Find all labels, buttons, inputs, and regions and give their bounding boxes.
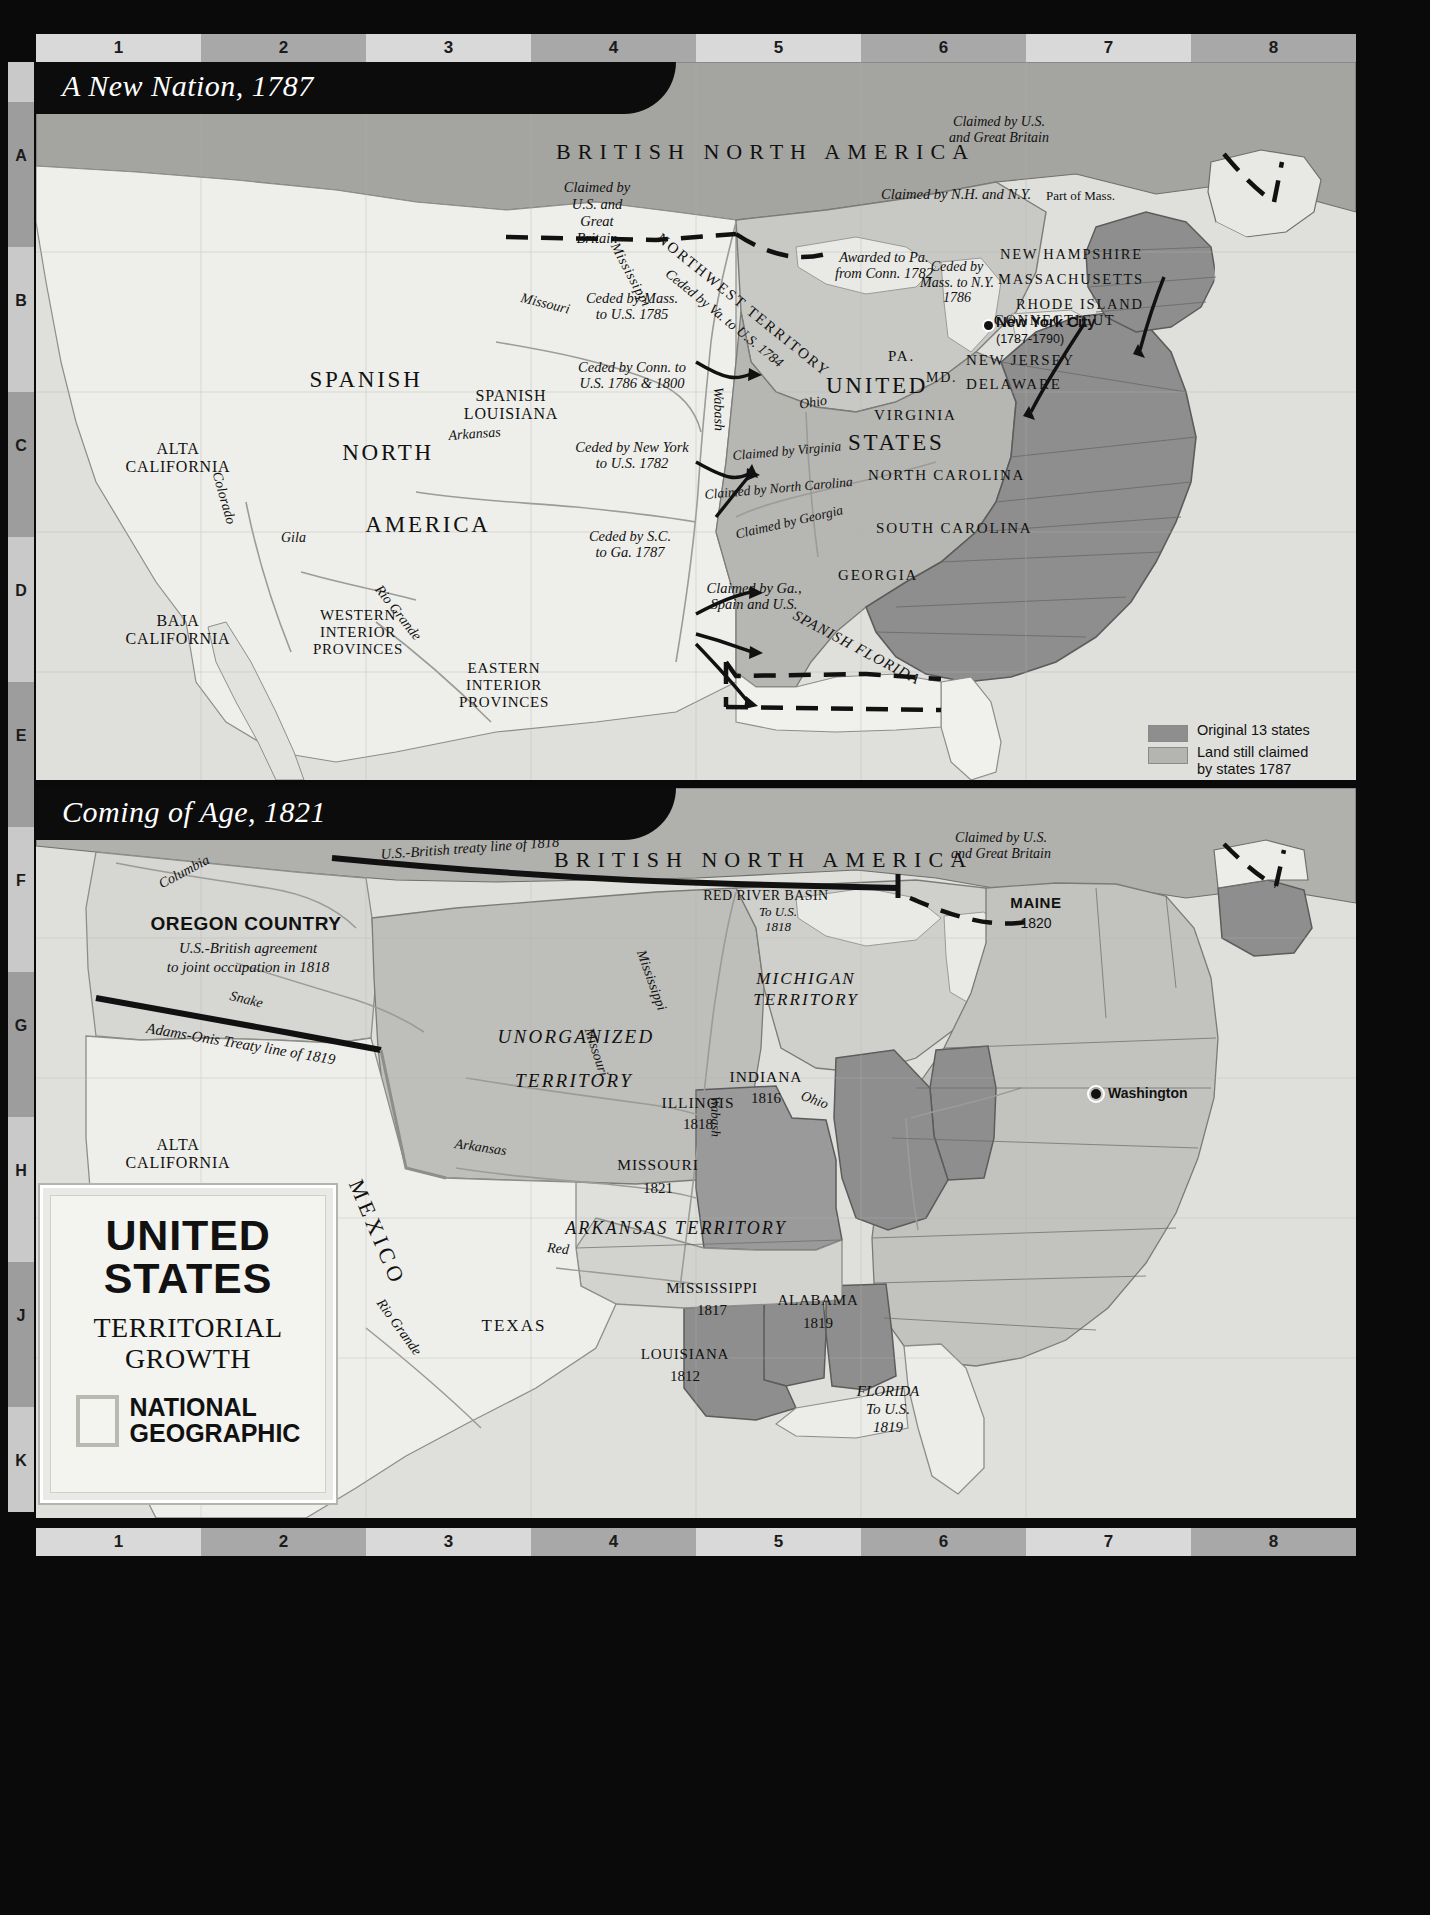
label-oregon-country: OREGON COUNTRY [151, 913, 342, 934]
grid-col-6-bottom: 6 [861, 1528, 1026, 1556]
grid-ruler-left: A B C D E F G H J K [8, 62, 34, 1512]
ng-yellow-rectangle-icon [76, 1395, 119, 1447]
annotation-ceded-sc-to-ga: Ceded by S.C. to Ga. 1787 [589, 528, 671, 560]
poster-title-box-inner: UNITED STATES TERRITORIAL GROWTH NATIONA… [50, 1195, 326, 1493]
grid-col-8-bottom: 8 [1191, 1528, 1356, 1556]
ng-wordmark-line2: GEOGRAPHIC [130, 1421, 301, 1447]
national-geographic-logo: NATIONAL GEOGRAPHIC [51, 1395, 325, 1447]
label-alta-california-1787: ALTA CALIFORNIA [126, 440, 231, 476]
grid-col-3-bottom: 3 [366, 1528, 531, 1556]
grid-col-5: 5 [696, 34, 861, 62]
grid-col-2-bottom: 2 [201, 1528, 366, 1556]
label-michigan-territory: MICHIGAN TERRITORY [753, 968, 859, 1011]
label-state-alabama: ALABAMA [777, 1292, 858, 1309]
grid-row-f: F [8, 827, 34, 972]
label-state-louisiana: LOUISIANA [641, 1346, 729, 1363]
ng-wordmark-line1: NATIONAL [130, 1395, 301, 1421]
grid-col-4: 4 [531, 34, 696, 62]
label-state-missouri-year: 1821 [643, 1180, 673, 1197]
label-state-rhode-island: RHODE ISLAND [1016, 296, 1144, 312]
legend-label-original-13-states: Original 13 states [1197, 722, 1310, 739]
grid-ruler-bottom: 1 2 3 4 5 6 7 8 [36, 1528, 1356, 1556]
label-city-washington: Washington [1108, 1086, 1188, 1102]
grid-row-b: B [8, 247, 34, 392]
label-city-new-york-years: (1787-1790) [996, 332, 1064, 346]
label-state-new-hampshire: NEW HAMPSHIRE [1000, 246, 1143, 262]
grid-col-2: 2 [201, 34, 366, 62]
label-state-massachusetts: MASSACHUSETTS [998, 271, 1144, 287]
label-spanish: SPANISH [309, 367, 422, 393]
poster-title-line1: UNITED [51, 1214, 325, 1257]
annotation-red-river-to-us: To U.S. 1818 [759, 904, 797, 935]
label-america: AMERICA [365, 512, 490, 538]
annotation-awarded-to-pa: Awarded to Pa. from Conn. 1782 [835, 249, 933, 281]
label-state-delaware: DELAWARE [966, 376, 1062, 393]
legend-swatch-land-still-claimed [1148, 747, 1188, 764]
grid-row-d: D [8, 537, 34, 682]
label-river-wabash: Wabash [710, 387, 726, 431]
grid-col-5-bottom: 5 [696, 1528, 861, 1556]
label-state-maine-year: 1820 [1020, 916, 1051, 932]
label-british-north-america-1821: BRITISH NORTH AMERICA [554, 848, 973, 873]
label-state-virginia: VIRGINIA [874, 407, 957, 424]
label-river-red: Red [546, 1240, 569, 1258]
label-state-mississippi: MISSISSIPPI [666, 1280, 758, 1297]
grid-col-4-bottom: 4 [531, 1528, 696, 1556]
annotation-claimed-us-gb-1821: Claimed by U.S. and Great Britain [951, 830, 1051, 861]
ng-wordmark: NATIONAL GEOGRAPHIC [130, 1395, 301, 1446]
annotation-red-river-basin: RED RIVER BASIN [703, 888, 828, 904]
label-north: NORTH [342, 440, 434, 466]
label-state-maryland: MD. [926, 370, 957, 386]
poster-title-box: UNITED STATES TERRITORIAL GROWTH NATIONA… [40, 1185, 336, 1503]
annotation-ceded-conn-to-us: Ceded by Conn. to U.S. 1786 & 1800 [578, 359, 686, 391]
poster-title-line2: STATES [51, 1257, 325, 1300]
grid-row-k: K [8, 1407, 34, 1512]
label-state-indiana-year: 1816 [751, 1090, 781, 1107]
map-legend: Original 13 states Land still claimed by… [1148, 722, 1348, 780]
map2-title: Coming of Age, 1821 [62, 795, 326, 829]
grid-row-a: A [8, 102, 34, 247]
poster-subtitle-line1: TERRITORIAL [51, 1312, 325, 1343]
annotation-ceded-ny-to-us: Ceded by New York to U.S. 1782 [575, 439, 688, 471]
grid-col-3: 3 [366, 34, 531, 62]
city-marker-washington [1091, 1089, 1101, 1099]
grid-col-6: 6 [861, 34, 1026, 62]
label-eastern-interior-provinces: EASTERN INTERIOR PROVINCES [459, 660, 549, 710]
annotation-claimed-us-gb-west: Claimed by U.S. and Great Britain [564, 179, 630, 247]
label-united: UNITED [826, 373, 928, 399]
grid-row-g: G [8, 972, 34, 1117]
label-state-maine: MAINE [1010, 895, 1061, 912]
label-state-new-jersey: NEW JERSEY [966, 352, 1075, 369]
label-state-alabama-year: 1819 [803, 1315, 833, 1332]
label-state-south-carolina: SOUTH CAROLINA [876, 520, 1032, 537]
annotation-claimed-ga-spain-us: Claimed by Ga., Spain and U.S. [706, 580, 801, 612]
annotation-florida-to-us: FLORIDA To U.S. 1819 [857, 1382, 920, 1436]
grid-row-e: E [8, 682, 34, 827]
label-river-wabash-1821: Wabash [707, 1096, 722, 1137]
label-states: STATES [848, 430, 945, 456]
legend-row-land-still-claimed: Land still claimed by states 1787 [1148, 744, 1348, 778]
grid-row-h: H [8, 1117, 34, 1262]
map1-title: A New Nation, 1787 [62, 69, 314, 103]
label-texas: TEXAS [482, 1316, 547, 1335]
label-city-new-york: New York City [996, 314, 1095, 331]
grid-col-7-bottom: 7 [1026, 1528, 1191, 1556]
label-state-illinois: ILLINOIS [662, 1094, 735, 1111]
annotation-ceded-mass-to-us: Ceded by Mass. to U.S. 1785 [586, 290, 678, 322]
annotation-claimed-nh-ny: Claimed by N.H. and N.Y. [881, 186, 1031, 202]
label-alta-california-1821: ALTA CALIFORNIA [126, 1136, 231, 1172]
label-territory: TERRITORY [515, 1070, 633, 1091]
map-panel-1787[interactable]: A New Nation, 1787 BRITISH NORTH AMERICA… [36, 62, 1356, 780]
label-arkansas-territory: ARKANSAS TERRITORY [565, 1218, 787, 1238]
grid-row-c: C [8, 392, 34, 537]
grid-row-j: J [8, 1262, 34, 1407]
label-spanish-louisiana: SPANISH LOUISIANA [464, 387, 558, 423]
label-state-pennsylvania: PA. [888, 348, 915, 365]
map1-title-bar: A New Nation, 1787 [36, 62, 616, 114]
label-unorganized: UNORGANIZED [497, 1026, 654, 1047]
annotation-ceded-mass-to-ny: Ceded by Mass. to N.Y. 1786 [920, 259, 994, 306]
grid-ruler-top: 1 2 3 4 5 6 7 8 [36, 34, 1356, 62]
map-1787-graphics [36, 62, 1356, 780]
legend-swatch-original-13-states [1148, 725, 1188, 742]
label-baja-california: BAJA CALIFORNIA [126, 612, 231, 648]
